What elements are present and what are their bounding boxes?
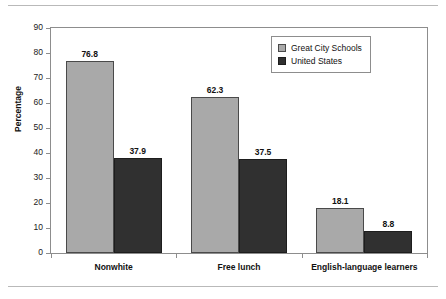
bar — [114, 158, 162, 253]
chart-legend: Great City SchoolsUnited States — [271, 36, 371, 73]
y-axis-title: Percentage — [13, 49, 23, 169]
bar — [239, 159, 287, 253]
y-axis-tick-label: 50 — [34, 122, 43, 133]
x-axis-tick-mark — [51, 254, 52, 258]
x-axis-tick-mark — [427, 254, 428, 258]
y-axis-tick-label: 30 — [34, 172, 43, 183]
bar-value-label: 37.9 — [129, 146, 146, 156]
y-axis: 0102030405060708090 — [0, 27, 50, 254]
bar — [66, 61, 114, 253]
y-axis-tick-label: 90 — [34, 22, 43, 33]
legend-item-label: Great City Schools — [291, 43, 362, 53]
y-axis-tick-label: 20 — [34, 197, 43, 208]
bar — [316, 208, 364, 253]
x-axis-tick-mark — [302, 254, 303, 258]
top-divider-rule — [8, 5, 438, 6]
chart-figure: 0102030405060708090 Percentage 76.837.96… — [0, 0, 446, 299]
legend-item: United States — [278, 55, 362, 67]
legend-item: Great City Schools — [278, 42, 362, 54]
bottom-divider-rule — [8, 286, 438, 287]
x-axis-category-label: Nonwhite — [95, 262, 133, 272]
y-axis-tick-label: 70 — [34, 72, 43, 83]
bar — [191, 97, 239, 253]
y-axis-tick-label: 10 — [34, 222, 43, 233]
x-axis-category-label: Free lunch — [218, 262, 261, 272]
y-axis-tick-label: 80 — [34, 47, 43, 58]
legend-item-label: United States — [291, 56, 342, 66]
x-axis-tick-mark — [176, 254, 177, 258]
bar-value-label: 76.8 — [81, 49, 98, 59]
bar-value-label: 62.3 — [207, 85, 224, 95]
bar-value-label: 8.8 — [382, 219, 394, 229]
y-axis-tick-label: 60 — [34, 97, 43, 108]
y-axis-tick-label: 40 — [34, 147, 43, 158]
x-axis-category-label: English-language learners — [311, 262, 417, 272]
bar-value-label: 37.5 — [255, 147, 272, 157]
legend-swatch-icon — [278, 44, 286, 52]
bar — [364, 231, 412, 253]
y-axis-tick-label: 0 — [38, 247, 43, 258]
bar-value-label: 18.1 — [332, 196, 349, 206]
bar-group: 76.837.9 — [51, 28, 176, 253]
legend-swatch-icon — [278, 57, 286, 65]
x-axis: NonwhiteFree lunchEnglish-language learn… — [50, 254, 428, 284]
